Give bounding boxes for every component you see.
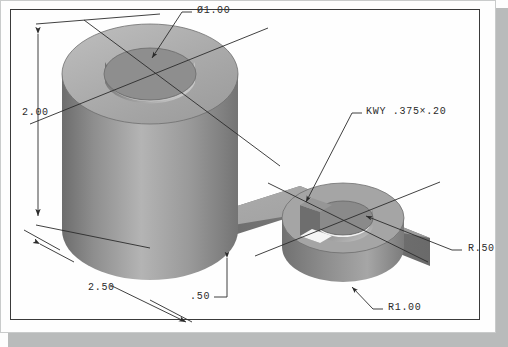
small-radius-callout: R.50 bbox=[468, 243, 495, 254]
solid-model-graphics bbox=[0, 0, 508, 347]
small-boss bbox=[282, 183, 404, 282]
thickness-dimension: .50 bbox=[190, 291, 210, 302]
keyway-callout: KWY .375×.20 bbox=[366, 106, 446, 117]
drawing-scene: Ø1.00 2.00 KWY .375×.20 2.50 .50 R.50 R1… bbox=[0, 0, 508, 347]
length-dimension: 2.50 bbox=[88, 282, 115, 293]
thickness-dimension-geometry bbox=[214, 258, 227, 297]
large-radius-leader bbox=[352, 287, 383, 309]
height-dimension: 2.00 bbox=[22, 107, 49, 118]
large-boss bbox=[62, 24, 238, 280]
large-radius-callout: R1.00 bbox=[388, 302, 422, 313]
diameter-callout: Ø1.00 bbox=[197, 5, 231, 16]
